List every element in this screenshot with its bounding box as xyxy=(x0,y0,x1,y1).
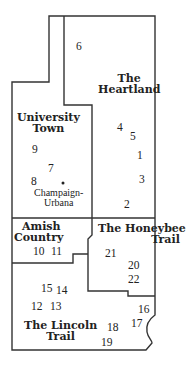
marker-2: 2 xyxy=(124,199,130,211)
region-name-line2: Town xyxy=(17,123,80,134)
region-label-honeybee-trail: The Honeybee Trail xyxy=(98,223,186,245)
region-label-university-town: University Town xyxy=(17,112,80,134)
region-label-heartland: The Heartland xyxy=(98,73,160,95)
region-map xyxy=(0,0,191,365)
marker-6: 6 xyxy=(76,41,82,53)
region-label-lincoln-trail: The Lincoln Trail xyxy=(24,320,97,342)
city-dot xyxy=(62,182,65,185)
marker-16: 16 xyxy=(138,304,150,316)
marker-15: 15 xyxy=(41,283,53,295)
marker-21: 21 xyxy=(105,248,117,260)
region-name-line2: Trail xyxy=(98,234,186,245)
marker-20: 20 xyxy=(128,260,140,272)
region-name-line2: Trail xyxy=(24,331,97,342)
marker-19: 19 xyxy=(101,337,113,349)
marker-22: 22 xyxy=(128,274,140,286)
city-name-line2: Urbana xyxy=(34,198,83,208)
region-label-amish-country: Amish Country xyxy=(14,221,63,243)
marker-13: 13 xyxy=(50,301,62,313)
marker-11: 11 xyxy=(51,246,62,258)
marker-1: 1 xyxy=(137,150,143,162)
marker-7: 7 xyxy=(48,163,54,175)
marker-10: 10 xyxy=(33,246,45,258)
marker-3: 3 xyxy=(139,174,145,186)
marker-17: 17 xyxy=(131,318,143,330)
boundary-amish-bottom xyxy=(12,254,88,263)
marker-8: 8 xyxy=(31,176,37,188)
region-name-line2: Heartland xyxy=(98,84,160,95)
region-name-line2: Country xyxy=(14,232,63,243)
marker-4: 4 xyxy=(117,122,123,134)
marker-12: 12 xyxy=(31,301,43,313)
city-label-champaign-urbana: Champaign- Urbana xyxy=(34,188,83,208)
marker-5: 5 xyxy=(130,131,136,143)
marker-14: 14 xyxy=(56,285,68,297)
marker-18: 18 xyxy=(107,322,119,334)
marker-9: 9 xyxy=(32,144,38,156)
